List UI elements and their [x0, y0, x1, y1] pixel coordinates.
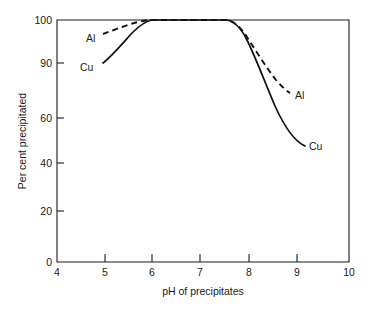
y-axis-title: Per cent precipitated [16, 93, 28, 189]
x-tick-label-9: 9 [294, 266, 300, 278]
chart-figure: 100 90 60 40 20 0 4 5 6 7 8 9 10 pH of p… [0, 0, 374, 309]
y-tick-label-60: 60 [40, 112, 52, 124]
y-tick-label-100: 100 [34, 14, 52, 26]
precipitation-ph-line-chart: 100 90 60 40 20 0 4 5 6 7 8 9 10 pH of p… [0, 0, 374, 309]
series-label-al-right: Al [295, 89, 304, 101]
x-axis-title: pH of precipitates [162, 285, 244, 297]
series-label-cu-right: Cu [309, 140, 323, 152]
series-label-al-left: Al [86, 32, 95, 44]
x-tick-label-4: 4 [54, 266, 60, 278]
x-tick-label-7: 7 [197, 266, 203, 278]
y-tick-label-20: 20 [40, 205, 52, 217]
chart-background [0, 0, 374, 309]
y-tick-label-90: 90 [40, 57, 52, 69]
x-tick-label-6: 6 [149, 266, 155, 278]
x-tick-label-10: 10 [343, 266, 355, 278]
x-tick-label-8: 8 [246, 266, 252, 278]
series-label-cu-left: Cu [80, 61, 94, 73]
x-tick-label-5: 5 [102, 266, 108, 278]
y-tick-label-0: 0 [46, 256, 52, 268]
y-tick-label-40: 40 [40, 157, 52, 169]
